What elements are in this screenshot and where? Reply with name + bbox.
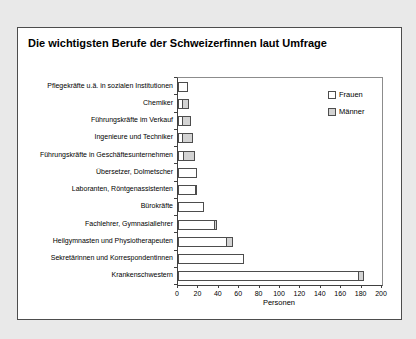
- bar-segment-frauen: [178, 237, 227, 247]
- category-label: Bürokräfte: [18, 202, 173, 209]
- bar-segment-männer: [182, 116, 191, 126]
- bar-segment-frauen: [178, 168, 197, 178]
- category-label: Sekretärinnen und Korrespondentinnen: [18, 254, 173, 261]
- legend-label: Frauen: [339, 90, 363, 99]
- y-axis-tick: [174, 250, 177, 251]
- y-axis-tick: [174, 181, 177, 182]
- bar-segment-frauen: [178, 254, 244, 264]
- bar-3: [178, 133, 193, 143]
- bar-segment-frauen: [178, 82, 188, 92]
- x-axis-tick: [340, 285, 341, 288]
- bar-segment-männer: [195, 185, 197, 195]
- x-axis-tick: [218, 285, 219, 288]
- bar-2: [178, 116, 191, 126]
- bar-7: [178, 202, 204, 212]
- bar-11: [178, 271, 364, 281]
- bar-segment-männer: [183, 151, 195, 161]
- y-axis-tick: [174, 215, 177, 216]
- chart-title: Die wichtigsten Berufe der Schweizerfinn…: [28, 37, 327, 49]
- y-axis-tick: [174, 198, 177, 199]
- bar-segment-frauen: [178, 220, 215, 230]
- y-axis-tick: [174, 267, 177, 268]
- legend-swatch-icon: [328, 108, 336, 116]
- legend: FrauenMänner: [328, 90, 364, 124]
- legend-label: Männer: [339, 107, 364, 116]
- bar-9: [178, 237, 233, 247]
- bar-5: [178, 168, 197, 178]
- bar-segment-frauen: [178, 202, 204, 212]
- legend-entry-frauen: Frauen: [328, 90, 364, 99]
- category-axis-labels: Pflegekräfte u.ä. in sozialen Institutio…: [18, 77, 173, 284]
- y-axis-tick: [174, 94, 177, 95]
- x-axis-tick: [197, 285, 198, 288]
- bar-segment-männer: [214, 220, 217, 230]
- bar-segment-frauen: [178, 271, 359, 281]
- category-label: Laboranten, Röntgenassistenten: [18, 185, 173, 192]
- bar-segment-männer: [226, 237, 233, 247]
- legend-entry-männer: Männer: [328, 107, 364, 116]
- category-label: Übersetzer, Dolmetscher: [18, 168, 173, 175]
- bar-segment-frauen: [178, 185, 196, 195]
- y-axis-tick: [174, 163, 177, 164]
- bar-0: [178, 82, 188, 92]
- bar-segment-männer: [358, 271, 364, 281]
- bar-segment-männer: [182, 99, 189, 109]
- chart-figure: Die wichtigsten Berufe der Schweizerfinn…: [17, 27, 402, 320]
- y-axis-tick: [174, 77, 177, 78]
- x-axis-tick: [320, 285, 321, 288]
- bar-4: [178, 151, 195, 161]
- category-label: Fachlehrer, Gymnasiallehrer: [18, 220, 173, 227]
- x-axis-tick: [381, 285, 382, 288]
- x-axis-tick: [361, 285, 362, 288]
- category-label: Krankenschwestern: [18, 271, 173, 278]
- y-axis-tick: [174, 146, 177, 147]
- x-axis-tick-label: 200: [369, 290, 393, 297]
- bar-10: [178, 254, 244, 264]
- category-label: Chemiker: [18, 99, 173, 106]
- x-axis-tick: [299, 285, 300, 288]
- bar-segment-männer: [182, 133, 193, 143]
- x-axis-tick: [279, 285, 280, 288]
- x-axis-title: Personen: [177, 298, 381, 307]
- x-axis-tick: [259, 285, 260, 288]
- x-axis-tick: [238, 285, 239, 288]
- category-label: Führungskräfte im Verkauf: [18, 116, 173, 123]
- x-axis-tick: [177, 285, 178, 288]
- y-axis-tick: [174, 112, 177, 113]
- bar-8: [178, 220, 217, 230]
- category-label: Heilgymnasten und Physiotherapeuten: [18, 237, 173, 244]
- y-axis-tick: [174, 232, 177, 233]
- category-label: Ingenieure und Techniker: [18, 133, 173, 140]
- legend-swatch-icon: [328, 91, 336, 99]
- category-label: Pflegekräfte u.ä. in sozialen Institutio…: [18, 82, 173, 89]
- bar-6: [178, 185, 197, 195]
- bar-1: [178, 99, 189, 109]
- category-label: Führungskräfte in Geschäftesunternehmen: [18, 151, 173, 158]
- y-axis-tick: [174, 129, 177, 130]
